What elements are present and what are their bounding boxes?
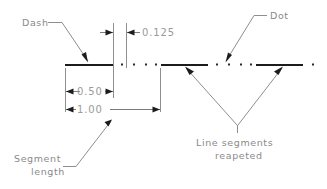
gap-dimension-value: 0.125: [142, 27, 175, 38]
dot-mark: [312, 64, 314, 66]
dot-mark: [121, 64, 123, 66]
dot-annotation: Dot: [226, 10, 289, 63]
repeat-leader-left-branch: [186, 68, 237, 125]
repeat-label-line2: reapeted: [215, 150, 263, 161]
dash-dot-line-pattern: [65, 64, 314, 66]
gap-arrowhead-left: [106, 30, 114, 36]
full-arrowhead-left: [66, 107, 74, 113]
dot-mark: [216, 64, 218, 66]
dot-mark: [133, 64, 135, 66]
segment-length-label-line2: length: [31, 166, 65, 177]
dot-mark: [250, 64, 252, 66]
repeat-leader-right-branch: [238, 68, 282, 125]
gap-arrowhead-right: [127, 30, 135, 36]
repeat-label-line1: Line segments: [196, 137, 273, 148]
dot-mark: [228, 64, 230, 66]
repeat-arrowhead-right: [274, 67, 283, 76]
full-dimension-100: 1.00: [66, 102, 160, 117]
half-arrowhead-right: [106, 89, 114, 95]
dash-annotation: Dash: [22, 17, 88, 63]
half-dimension-value: 0.50: [77, 86, 103, 97]
technical-drawing-canvas: Dash 0.125: [0, 0, 327, 189]
full-arrowhead-right: [153, 107, 161, 113]
segment-length-label-line1: Segment: [14, 153, 61, 164]
half-dimension-050: 0.50: [66, 86, 113, 97]
dot-label: Dot: [270, 10, 289, 21]
dash-label: Dash: [22, 17, 49, 28]
full-dimension-value: 1.00: [77, 104, 103, 115]
segment-length-leader-diagonal: [76, 121, 111, 167]
repeat-annotation: Line segments reapeted: [185, 67, 283, 162]
half-arrowhead-left: [66, 89, 74, 95]
dot-mark: [145, 64, 147, 66]
segment-length-annotation: Segment length: [14, 120, 112, 178]
segment-length-arrowhead: [105, 120, 113, 127]
dot-mark: [155, 64, 157, 66]
repeat-arrowhead-left: [185, 67, 194, 76]
dot-mark: [240, 64, 242, 66]
gap-dimension-0125: 0.125: [100, 23, 175, 68]
dot-leader-arrowhead: [226, 53, 233, 63]
